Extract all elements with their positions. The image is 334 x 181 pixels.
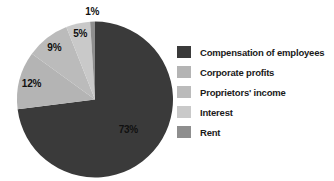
legend-item-4: Interest [177,102,324,122]
legend-swatch-2 [177,66,191,78]
slice-percent-label-5: 1% [85,5,99,16]
legend-label-4: Interest [200,107,233,118]
legend-swatch-1 [177,46,191,58]
legend: Compensation of employeesCorporate profi… [177,42,324,142]
legend-swatch-3 [177,86,191,98]
legend-item-2: Corporate profits [177,62,324,82]
legend-label-3: Proprietors' income [200,87,286,98]
slice-percent-label-3: 9% [47,42,61,53]
legend-label-2: Corporate profits [200,67,274,78]
pie-chart [0,0,190,181]
legend-swatch-4 [177,106,191,118]
pie-chart-figure: Compensation of employeesCorporate profi… [0,0,334,181]
legend-swatch-5 [177,126,191,138]
legend-item-5: Rent [177,122,324,142]
legend-item-3: Proprietors' income [177,82,324,102]
legend-label-5: Rent [200,127,220,138]
slice-percent-label-4: 5% [73,28,87,39]
legend-label-1: Compensation of employees [200,47,324,58]
legend-item-1: Compensation of employees [177,42,324,62]
slice-percent-label-1: 73% [119,123,138,134]
slice-percent-label-2: 12% [22,78,41,89]
